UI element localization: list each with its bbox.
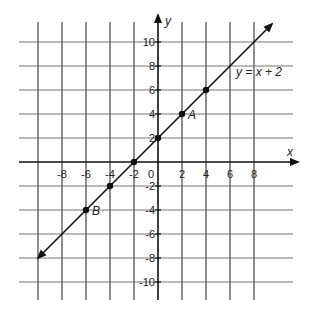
function-line: [38, 24, 272, 258]
x-tick-label: 2: [179, 168, 185, 180]
equation-label: y = x + 2: [235, 65, 282, 79]
line-y-equals-x-plus-2: [38, 24, 272, 258]
x-tick-label: -6: [81, 168, 91, 180]
y-tick-label: -4: [145, 204, 155, 216]
y-tick-label: -10: [139, 276, 155, 288]
x-tick-label: 4: [203, 168, 209, 180]
x-tick-label: -4: [105, 168, 115, 180]
data-point: [107, 183, 113, 189]
y-axis-label: y: [164, 14, 172, 28]
coordinate-plane: -8-6-4-22468108642-2-4-6-8-100 BA y = x …: [0, 0, 312, 320]
data-point: [203, 87, 209, 93]
axes: [19, 15, 298, 300]
y-tick-label: -2: [145, 180, 155, 192]
data-point: [179, 111, 185, 117]
y-tick-label: 6: [149, 84, 155, 96]
y-tick-label: -8: [145, 252, 155, 264]
x-tick-label: 6: [227, 168, 233, 180]
x-tick-label: 8: [251, 168, 257, 180]
x-axis-label: x: [286, 145, 294, 159]
data-point: [131, 159, 137, 165]
y-tick-label: 4: [149, 108, 155, 120]
origin-label: 0: [148, 168, 154, 180]
y-tick-label: 8: [149, 60, 155, 72]
y-tick-label: 10: [143, 36, 155, 48]
x-tick-label: -2: [129, 168, 139, 180]
point-label-b: B: [92, 204, 100, 218]
point-label-a: A: [187, 108, 196, 122]
data-point: [155, 135, 161, 141]
data-point: [83, 207, 89, 213]
x-tick-label: -8: [57, 168, 67, 180]
y-tick-label: -6: [145, 228, 155, 240]
